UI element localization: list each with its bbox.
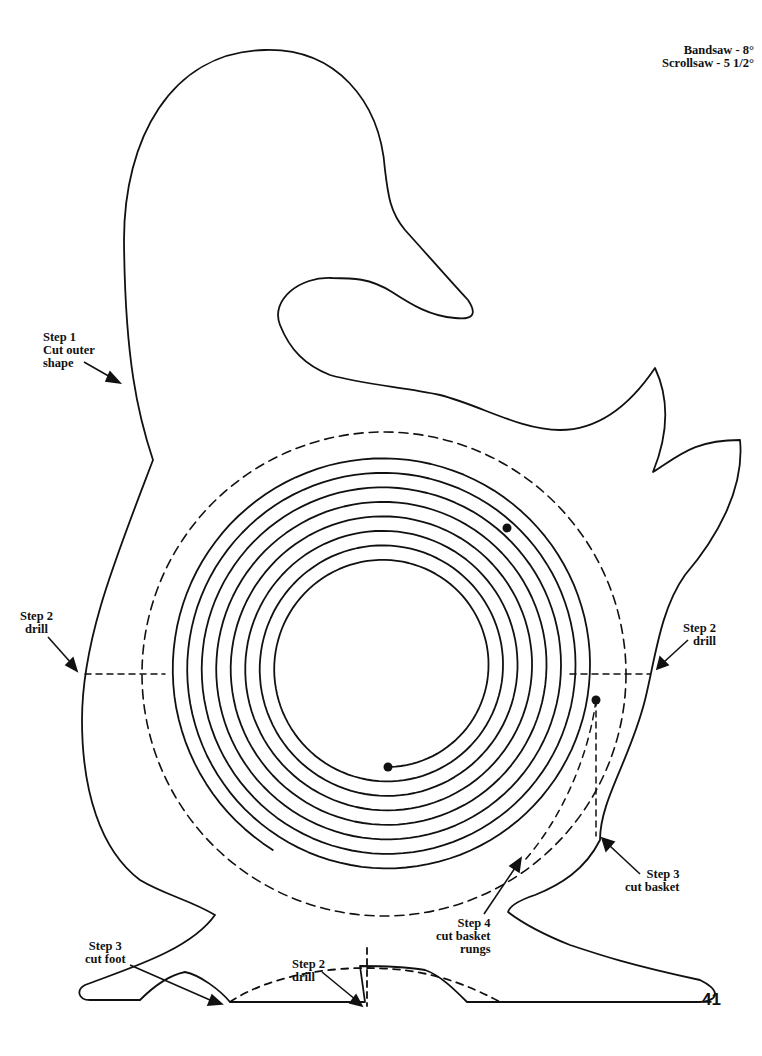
arrow-step4-rungs-icon (484, 858, 521, 914)
arrow-step2-left-icon (48, 637, 77, 671)
spiral-start-drill-dot (384, 763, 393, 772)
label-step3-cut-foot: Step 3 cut foot (85, 940, 126, 966)
saw-angle-notes: Bandsaw - 8° Scrollsaw - 5 1/2° (662, 44, 754, 70)
label-step1-cut-outer-shape: Step 1 Cut outer shape (43, 331, 95, 370)
arrow-step3-foot-icon (130, 965, 222, 1005)
arrow-step2-bottom-icon (322, 972, 362, 1006)
basket-dashed-circle (142, 432, 626, 916)
duck-outer-outline (79, 50, 740, 1002)
label-step3-cut-basket: Step 3 cut basket (625, 868, 680, 894)
label-step2-right-drill: Step 2 drill (683, 622, 716, 648)
scrollsaw-angle: Scrollsaw - 5 1/2° (662, 57, 754, 70)
basket-spiral-cut-line (173, 458, 590, 868)
spiral-end-drill-dot (503, 524, 512, 533)
duck-basket-pattern-drawing (0, 0, 762, 1056)
label-step2-bottom-drill: Step 2 drill (292, 958, 325, 984)
label-step4-cut-basket-rungs: Step 4 cut basket rungs (436, 917, 491, 956)
label-step2-left-drill: Step 2 drill (20, 610, 53, 636)
page-number: 41 (702, 990, 721, 1010)
scroll-saw-pattern-page: Bandsaw - 8° Scrollsaw - 5 1/2° Step 1 C… (0, 0, 762, 1056)
right-drill-dot (592, 696, 601, 705)
